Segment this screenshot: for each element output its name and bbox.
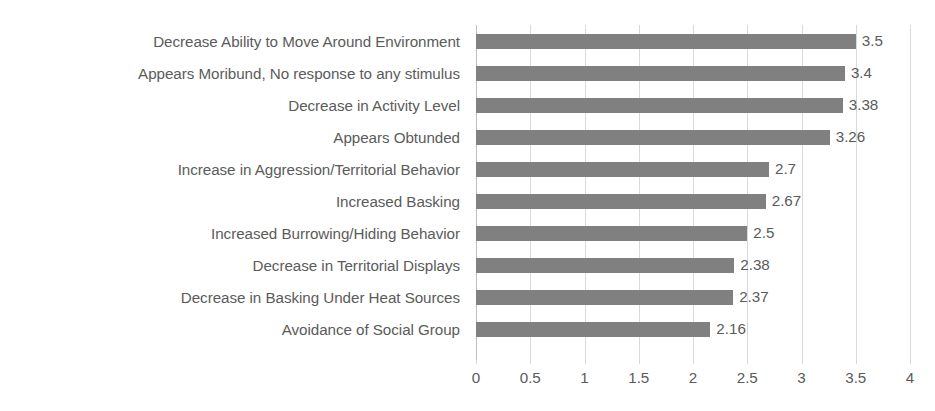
bar-value-label: 3.5 (862, 33, 883, 48)
bar[interactable] (476, 258, 734, 273)
bar-value-label: 3.38 (849, 97, 879, 112)
axis-tick-label: 0 (472, 369, 480, 386)
bar[interactable] (476, 290, 733, 305)
axis-tick-mark (639, 359, 640, 364)
axis-tick-label: 0.5 (520, 369, 541, 386)
category-label-row: Decrease in Basking Under Heat Sources (0, 281, 468, 313)
category-axis: Decrease Ability to Move Around Environm… (0, 25, 468, 361)
bar-row[interactable]: 2.67 (476, 185, 910, 217)
bar[interactable] (476, 130, 830, 145)
bar-row[interactable]: 3.26 (476, 121, 910, 153)
category-label: Increase in Aggression/Territorial Behav… (178, 161, 460, 178)
category-label-row: Decrease Ability to Move Around Environm… (0, 25, 468, 57)
bar[interactable] (476, 194, 766, 209)
category-label: Appears Moribund, No response to any sti… (138, 65, 460, 82)
bar[interactable] (476, 34, 856, 49)
axis-tick-label: 1 (580, 369, 588, 386)
bar-value-label: 2.5 (753, 225, 774, 240)
bar-row[interactable]: 3.5 (476, 25, 910, 57)
category-label-row: Appears Moribund, No response to any sti… (0, 57, 468, 89)
bar-row[interactable]: 2.37 (476, 281, 910, 313)
bar-row[interactable]: 2.38 (476, 249, 910, 281)
gridline (910, 25, 911, 361)
category-label-row: Increased Burrowing/Hiding Behavior (0, 217, 468, 249)
category-label: Decrease in Territorial Displays (253, 257, 460, 274)
bar[interactable] (476, 98, 843, 113)
axis-tick-label: 2 (689, 369, 697, 386)
axis-tick-label: 3 (797, 369, 805, 386)
bar-row[interactable]: 3.4 (476, 57, 910, 89)
axis-tick-mark (856, 359, 857, 364)
bar-value-label: 2.16 (716, 321, 746, 336)
bar[interactable] (476, 226, 747, 241)
category-label: Avoidance of Social Group (282, 321, 460, 338)
category-label-row: Appears Obtunded (0, 121, 468, 153)
bar-row[interactable]: 2.16 (476, 313, 910, 345)
category-label-row: Decrease in Activity Level (0, 89, 468, 121)
bar-value-label: 3.26 (836, 129, 866, 144)
bar-row[interactable]: 2.7 (476, 153, 910, 185)
axis-tick-mark (802, 359, 803, 364)
bar-value-label: 3.4 (851, 65, 872, 80)
category-label-row: Avoidance of Social Group (0, 313, 468, 345)
plot-area: 3.53.43.383.262.72.672.52.382.372.16 (476, 25, 910, 361)
bar-row[interactable]: 2.5 (476, 217, 910, 249)
category-label: Decrease Ability to Move Around Environm… (153, 33, 460, 50)
value-axis: 00.511.522.533.54 (476, 363, 910, 393)
category-label-row: Decrease in Territorial Displays (0, 249, 468, 281)
category-label: Increased Basking (336, 193, 460, 210)
category-label-row: Increase in Aggression/Territorial Behav… (0, 153, 468, 185)
axis-tick-mark (910, 359, 911, 364)
category-label: Increased Burrowing/Hiding Behavior (211, 225, 460, 242)
bar-value-label: 2.67 (772, 193, 802, 208)
bar-value-label: 2.37 (739, 289, 769, 304)
bar-value-label: 2.38 (740, 257, 770, 272)
category-label: Appears Obtunded (333, 129, 460, 146)
axis-tick-label: 3.5 (845, 369, 866, 386)
axis-tick-label: 4 (906, 369, 914, 386)
category-label: Decrease in Activity Level (288, 97, 460, 114)
bar[interactable] (476, 322, 710, 337)
bar-value-label: 2.7 (775, 161, 796, 176)
bar[interactable] (476, 162, 769, 177)
axis-tick-mark (530, 359, 531, 364)
axis-tick-label: 1.5 (628, 369, 649, 386)
category-label-row: Increased Basking (0, 185, 468, 217)
axis-tick-mark (585, 359, 586, 364)
axis-tick-mark (693, 359, 694, 364)
bar-series: 3.53.43.383.262.72.672.52.382.372.16 (476, 25, 910, 361)
bar[interactable] (476, 66, 845, 81)
bar-row[interactable]: 3.38 (476, 89, 910, 121)
axis-tick-mark (747, 359, 748, 364)
axis-tick-mark (476, 359, 477, 364)
category-label: Decrease in Basking Under Heat Sources (181, 289, 460, 306)
axis-tick-label: 2.5 (737, 369, 758, 386)
bar-chart: Decrease Ability to Move Around Environm… (0, 0, 935, 411)
